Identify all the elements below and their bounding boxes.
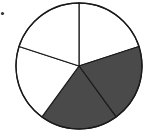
fraction-pie-diagram: [0, 0, 148, 135]
bullet-marker: [1, 12, 4, 15]
